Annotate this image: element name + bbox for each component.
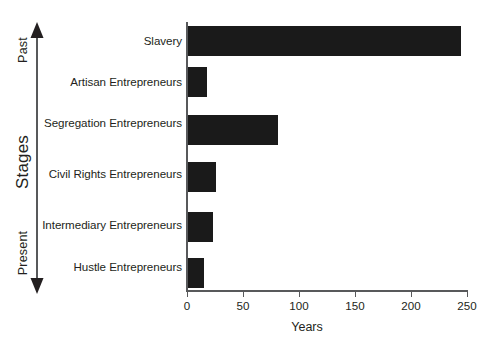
- axis-annotation-past: Past: [16, 20, 30, 80]
- x-axis-tick: [243, 291, 244, 297]
- x-axis-tick-label: 200: [391, 299, 431, 312]
- y-axis-title: Stages: [13, 117, 33, 207]
- x-axis-tick-label: 150: [335, 299, 375, 312]
- x-axis-line: [186, 290, 468, 292]
- bar-civil-rights-entrepreneurs: [187, 162, 216, 192]
- x-axis-tick-label: 50: [223, 299, 263, 312]
- category-label-group: Slavery Artisan Entrepreneurs Segregatio…: [40, 0, 182, 346]
- bar-hustle-entrepreneurs: [187, 258, 204, 288]
- bar-chart: Past Stages Present Slavery Artisan Entr…: [0, 0, 488, 346]
- category-label-slavery: Slavery: [40, 34, 182, 47]
- category-label-hustle-entrepreneurs: Hustle Entrepreneurs: [40, 260, 182, 273]
- x-axis-title: Years: [187, 320, 427, 334]
- x-axis-tick: [411, 291, 412, 297]
- y-axis-line: [186, 22, 188, 291]
- category-label-civil-rights-entrepreneurs: Civil Rights Entrepreneurs: [40, 167, 182, 180]
- bar-segregation-entrepreneurs: [187, 115, 278, 145]
- bar-slavery: [187, 26, 461, 56]
- x-axis-tick-label: 0: [167, 299, 207, 312]
- x-axis-tick: [187, 291, 188, 297]
- bar-artisan-entrepreneurs: [187, 67, 207, 97]
- axis-annotation-present: Present: [16, 213, 30, 293]
- x-axis-tick: [467, 291, 468, 297]
- category-label-artisan-entrepreneurs: Artisan Entrepreneurs: [40, 75, 182, 88]
- x-axis-tick-label: 250: [447, 299, 487, 312]
- category-label-segregation-entrepreneurs: Segregation Entrepreneurs: [40, 116, 182, 129]
- category-label-intermediary-entrepreneurs: Intermediary Entrepreneurs: [40, 218, 182, 231]
- x-axis-tick: [355, 291, 356, 297]
- plot-area: [187, 22, 488, 290]
- x-axis-tick-label: 100: [279, 299, 319, 312]
- bar-intermediary-entrepreneurs: [187, 212, 213, 242]
- x-axis-tick: [299, 291, 300, 297]
